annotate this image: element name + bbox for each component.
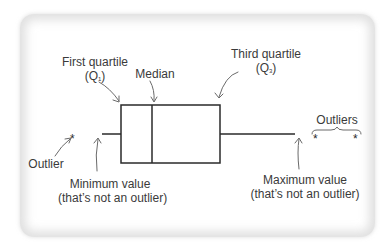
median-label: Median — [132, 67, 178, 81]
outlier-marker-right-1: * — [313, 132, 318, 146]
outlier-marker-left: * — [70, 132, 75, 146]
maximum-value-label: Maximum value (that’s not an outlier) — [250, 173, 360, 201]
maximum-value-line2: (that’s not an outlier) — [250, 187, 360, 201]
first-quartile-title: First quartile — [54, 55, 136, 69]
outlier-marker-right-2: * — [353, 132, 358, 146]
outliers-label: Outliers — [310, 113, 364, 127]
maximum-value-line1: Maximum value — [250, 173, 360, 187]
minimum-value-label: Minimum value (that’s not an outlier) — [58, 177, 162, 205]
minimum-arrow-icon — [96, 139, 98, 171]
third-quartile-symbol: (Q3) — [225, 61, 307, 78]
first-quartile-label: First quartile (Q1) — [54, 55, 136, 86]
outlier-label: Outlier — [26, 157, 66, 171]
outlier-arrow-icon — [55, 139, 70, 156]
maximum-arrow-icon — [298, 139, 299, 169]
third-quartile-title: Third quartile — [225, 47, 307, 61]
minimum-value-line1: Minimum value — [58, 177, 162, 191]
iqr-box — [121, 105, 220, 163]
third-quartile-label: Third quartile (Q3) — [225, 47, 307, 78]
minimum-value-line2: (that’s not an outlier) — [58, 191, 162, 205]
first-quartile-symbol: (Q1) — [54, 69, 136, 86]
